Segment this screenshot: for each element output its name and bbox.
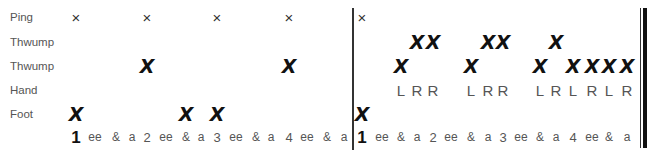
hand-sticking: L [605,83,613,98]
hand-sticking: L [467,83,475,98]
thwump-low-hit-icon: X [464,57,479,76]
count-syllable: ee [375,131,388,143]
thwump-low-hit-icon: X [394,57,409,76]
thwump-high-hit-icon: X [410,33,425,52]
final-barline-thin [640,8,641,148]
thwump-low-hit-icon: X [282,57,297,76]
thwump-low-hit-icon: X [585,57,600,76]
thwump-low-hit-icon: X [140,57,155,76]
hand-sticking: R [622,83,633,98]
hand-sticking: R [428,83,439,98]
count-syllable: a [553,131,560,143]
count-syllable: & [467,131,475,143]
count-syllable: ee [514,131,527,143]
count-syllable: a [624,131,631,143]
count-syllable: a [198,131,205,143]
count-syllable: 3 [499,131,506,144]
thwump-high-hit-icon: X [426,33,441,52]
count-syllable: 1 [357,129,366,146]
hand-sticking: R [498,83,509,98]
count-syllable: & [252,131,260,143]
count-syllable: & [536,131,544,143]
hand-sticking: L [569,83,577,98]
hand-sticking: R [412,83,423,98]
count-syllable: a [414,131,421,143]
row-label-ping: Ping [10,11,33,23]
count-syllable: 3 [213,131,220,144]
ping-hit-icon: × [213,10,222,25]
thwump-high-hit-icon: X [549,33,564,52]
count-syllable: 1 [71,129,80,146]
hand-sticking: L [397,83,405,98]
row-label-hand: Hand [10,84,38,96]
ping-hit-icon: × [143,10,152,25]
count-syllable: & [605,131,613,143]
count-syllable: & [112,131,120,143]
foot-hit-icon: X [179,105,194,124]
row-label-thwump-low: Thwump [10,60,54,72]
count-syllable: a [485,131,492,143]
ping-hit-icon: × [358,10,367,25]
count-syllable: a [341,131,348,143]
foot-hit-icon: X [355,105,370,124]
hand-sticking: R [587,83,598,98]
count-syllable: ee [585,131,598,143]
thwump-high-hit-icon: X [481,33,496,52]
count-syllable: & [323,131,331,143]
count-syllable: 4 [569,131,576,144]
count-syllable: ee [229,131,242,143]
count-syllable: 2 [429,131,436,144]
count-syllable: ee [444,131,457,143]
final-barline-thick [643,8,647,148]
count-syllable: 2 [143,131,150,144]
hand-sticking: R [551,83,562,98]
ping-hit-icon: × [72,10,81,25]
count-syllable: & [397,131,405,143]
count-syllable: 4 [285,131,292,144]
thwump-high-hit-icon: X [496,33,511,52]
foot-hit-icon: X [210,105,225,124]
count-syllable: & [182,131,190,143]
foot-hit-icon: X [69,105,84,124]
count-syllable: a [268,131,275,143]
count-syllable: a [129,131,136,143]
row-label-thwump-high: Thwump [10,36,54,48]
row-label-foot: Foot [10,108,33,120]
thwump-low-hit-icon: X [602,57,617,76]
thwump-low-hit-icon: X [533,57,548,76]
hand-sticking: L [536,83,544,98]
thwump-low-hit-icon: X [620,57,635,76]
count-syllable: ee [159,131,172,143]
middle-barline [352,8,354,150]
thwump-low-hit-icon: X [566,57,581,76]
count-syllable: ee [88,131,101,143]
ping-hit-icon: × [285,10,294,25]
count-syllable: ee [300,131,313,143]
hand-sticking: R [483,83,494,98]
